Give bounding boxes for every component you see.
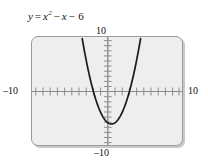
equation-minus-second: − xyxy=(67,10,77,22)
plot-area xyxy=(31,36,183,146)
axis-label-right: 10 xyxy=(188,85,198,96)
plot-frame xyxy=(31,36,183,146)
equation-minus-first: − xyxy=(52,10,62,22)
axis-label-bottom: –10 xyxy=(94,147,109,158)
graph-figure: y=x2−x−6 xyxy=(0,0,208,165)
x-axis-group xyxy=(32,88,182,96)
equation-equals: = xyxy=(33,10,43,22)
equation-label: y=x2−x−6 xyxy=(28,9,86,22)
axis-label-top: 10 xyxy=(96,25,106,36)
graph-canvas xyxy=(32,37,182,145)
axis-label-left: –10 xyxy=(3,85,18,96)
equation-constant: 6 xyxy=(77,10,86,22)
